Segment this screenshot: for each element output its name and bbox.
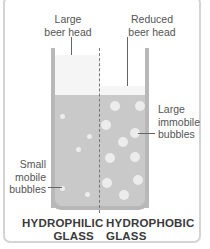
large-bubble [101, 120, 111, 130]
foam-hydrophobic [100, 86, 145, 95]
large-bubble [130, 152, 140, 162]
leader-large-immobile-bubbles [138, 133, 155, 134]
small-bubble [85, 192, 90, 197]
label-large-beer-head: Large beer head [38, 13, 98, 38]
large-bubble [105, 153, 115, 163]
label-large-immobile-bubbles: Large immobile bubbles [158, 103, 208, 141]
large-bubble [110, 101, 120, 111]
large-bubble [133, 175, 143, 185]
beer-liquid [55, 95, 145, 206]
foam-hydrophilic [55, 55, 100, 95]
small-bubble [60, 114, 65, 119]
label-small-mobile-bubbles: Small mobile bubbles [2, 158, 46, 196]
large-bubble [119, 190, 129, 200]
small-bubble [76, 147, 81, 152]
leader-reduced-beer-head [127, 37, 128, 91]
large-bubble [102, 178, 112, 188]
glass-right-wall [145, 48, 149, 208]
label-reduced-beer-head: Reduced beer head [122, 13, 182, 38]
small-bubble [87, 134, 92, 139]
divider-dashed-line [99, 48, 100, 213]
title-hydrophilic-glass: HYDROPHILIC GLASS [22, 217, 94, 243]
title-hydrophobic-glass: HYDROPHOBIC GLASS [106, 217, 196, 243]
leader-small-mobile-bubbles [48, 187, 62, 188]
large-bubble [118, 137, 128, 147]
large-bubble [135, 101, 145, 111]
